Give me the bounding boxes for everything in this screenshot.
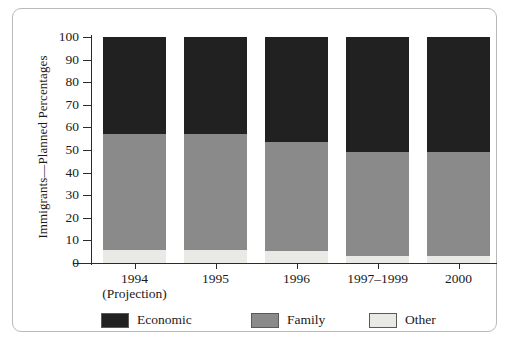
x-axis-tick bbox=[378, 263, 379, 269]
legend-label-economic: Economic bbox=[137, 313, 192, 327]
legend-swatch-family bbox=[251, 313, 279, 328]
legend-item-other: Other bbox=[369, 312, 436, 328]
y-axis-tick-label: 40 bbox=[29, 166, 79, 180]
legend-swatch-economic bbox=[101, 313, 129, 328]
x-axis-tick bbox=[297, 263, 298, 269]
y-axis-tick bbox=[83, 105, 91, 106]
bar-segment-other bbox=[346, 256, 409, 263]
bar-1997-1999 bbox=[346, 37, 409, 263]
bar-segment-family bbox=[103, 134, 166, 250]
x-axis-tick-label-main: 1996 bbox=[283, 271, 310, 286]
bar-segment-other bbox=[184, 250, 247, 263]
y-axis-tick-label: 80 bbox=[29, 75, 79, 89]
y-axis-tick-label: 0 bbox=[29, 256, 79, 270]
x-axis-line bbox=[73, 263, 497, 264]
bar-1995 bbox=[184, 37, 247, 263]
x-axis-tick bbox=[135, 263, 136, 269]
bar-segment-other bbox=[427, 256, 490, 263]
legend-label-other: Other bbox=[405, 313, 436, 327]
x-axis-tick bbox=[459, 263, 460, 269]
legend-swatch-other bbox=[369, 313, 397, 328]
y-axis-tick bbox=[83, 173, 91, 174]
bar-segment-other bbox=[103, 250, 166, 263]
y-axis-tick bbox=[83, 82, 91, 83]
bar-segment-family bbox=[427, 152, 490, 256]
plot-area bbox=[91, 37, 490, 263]
y-axis-tick-label: 30 bbox=[29, 188, 79, 202]
y-axis-tick-label: 50 bbox=[29, 143, 79, 157]
y-axis-tick bbox=[83, 218, 91, 219]
x-axis-tick-label: 2000 bbox=[399, 271, 514, 286]
bar-1996 bbox=[265, 37, 328, 263]
y-axis-tick bbox=[83, 127, 91, 128]
bar-1994 bbox=[103, 37, 166, 263]
bar-segment-family bbox=[346, 152, 409, 256]
y-axis-tick-label: 20 bbox=[29, 211, 79, 225]
y-axis-tick bbox=[83, 150, 91, 151]
y-axis-tick bbox=[83, 37, 91, 38]
x-axis-tick-label-main: 1995 bbox=[202, 271, 229, 286]
y-axis-tick-label: 60 bbox=[29, 120, 79, 134]
y-axis-tick bbox=[83, 263, 91, 264]
y-axis-tick-label: 70 bbox=[29, 98, 79, 112]
x-axis-tick bbox=[216, 263, 217, 269]
bar-segment-economic bbox=[427, 37, 490, 152]
bar-segment-economic bbox=[184, 37, 247, 134]
bar-segment-economic bbox=[346, 37, 409, 152]
chart-figure: Immigrants—Planned Percentages 010203040… bbox=[12, 8, 497, 332]
y-axis-tick bbox=[83, 195, 91, 196]
bar-segment-economic bbox=[103, 37, 166, 134]
y-axis-tick-label: 10 bbox=[29, 233, 79, 247]
y-axis-tick bbox=[83, 240, 91, 241]
bar-segment-family bbox=[265, 142, 328, 250]
legend-item-family: Family bbox=[251, 312, 325, 328]
x-axis-tick-label-main: 2000 bbox=[445, 271, 472, 286]
x-axis-tick-sublabel: (Projection) bbox=[75, 286, 195, 301]
bar-2000 bbox=[427, 37, 490, 263]
y-axis-tick bbox=[83, 60, 91, 61]
legend-label-family: Family bbox=[287, 313, 325, 327]
y-axis-tick-label: 90 bbox=[29, 53, 79, 67]
y-axis-tick-label: 100 bbox=[29, 30, 79, 44]
bar-segment-family bbox=[184, 134, 247, 250]
x-axis-tick-label-main: 1994 bbox=[121, 271, 148, 286]
bar-segment-other bbox=[265, 251, 328, 263]
legend-item-economic: Economic bbox=[101, 312, 192, 328]
bar-segment-economic bbox=[265, 37, 328, 142]
